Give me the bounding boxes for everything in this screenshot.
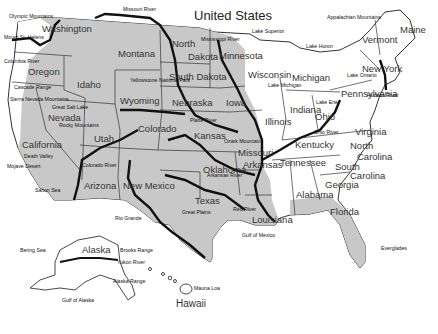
feature-label-bering-sea: Bering Sea xyxy=(20,248,46,253)
state-label-nebraska: Nebraska xyxy=(172,98,213,108)
feature-label-cascade-range: Cascade Range xyxy=(14,85,51,90)
state-label-hawaii: Hawaii xyxy=(176,299,206,309)
state-label-illinois: Illinois xyxy=(265,117,291,127)
feature-label-death-valley: Death Valley xyxy=(24,154,53,159)
state-label-tennessee: Tennessee xyxy=(280,158,326,168)
feature-label-lake-michigan: Lake Michigan xyxy=(268,83,301,88)
state-label-georgia: Georgia xyxy=(325,180,359,190)
state-label-ohio: Ohio xyxy=(315,112,335,122)
hawaii-islands xyxy=(149,268,193,295)
state-label-north: North xyxy=(350,141,373,151)
feature-label-missouri-river: Missouri River xyxy=(123,7,156,12)
state-label-alaska: Alaska xyxy=(82,245,111,255)
state-label-alabama: Alabama xyxy=(296,190,334,200)
state-label-kansas: Kansas xyxy=(194,131,226,141)
feature-label-mount-st-helens: Mount St. Helens xyxy=(4,35,44,40)
state-label-kentucky: Kentucky xyxy=(295,140,334,150)
state-label-minnesota: Minnesota xyxy=(219,51,263,61)
feature-label-alaska-range: Alaska Range xyxy=(113,279,145,284)
state-label-idaho: Idaho xyxy=(77,80,101,90)
feature-label-sierra-nevada-mountains: Sierra Nevada Mountains xyxy=(10,97,69,102)
state-label-dakota: Dakota xyxy=(188,52,218,62)
feature-label-salton-sea: Salton Sea xyxy=(35,188,60,193)
state-label-texas: Texas xyxy=(195,196,220,206)
state-label-new-mexico: New Mexico xyxy=(123,181,175,191)
state-label-virginia: Virginia xyxy=(355,127,387,137)
state-label-wisconsin: Wisconsin xyxy=(248,70,291,80)
feature-label-gulf-of-alaska: Gulf of Alaska xyxy=(62,298,94,303)
feature-label-columbia-river: Columbia River xyxy=(4,59,39,64)
feature-label-yukon-river: Yukon River xyxy=(117,260,145,265)
feature-label-rocky-mountains: Rocky Mountains xyxy=(59,123,99,128)
feature-label-great-plains: Great Plains xyxy=(182,210,211,215)
feature-label-arkansas-river: Arkansas River xyxy=(207,173,242,178)
feature-label-platte-river: Platte River xyxy=(190,118,217,123)
feature-label-red-river: Red River xyxy=(233,207,256,212)
state-label-iowa: Iowa xyxy=(226,98,246,108)
feature-label-rio-grande: Rio Grande xyxy=(115,216,142,221)
state-label-maine: Maine xyxy=(400,25,426,35)
feature-label-mauna-loa: Mauna Loa xyxy=(194,286,220,291)
feature-label-appalachian-mountains: Appalachian Mountains xyxy=(327,15,381,20)
feature-label-lake-huron: Lake Huron xyxy=(306,44,333,49)
feature-label-lake-superior: Lake Superior xyxy=(252,29,284,34)
state-label-carolina: Carolina xyxy=(350,171,385,181)
state-label-arizona: Arizona xyxy=(84,181,116,191)
feature-label-lake-erie: Lake Erie xyxy=(316,100,338,105)
feature-label-yellowstone-national-park: Yellowstone National Park xyxy=(130,78,190,83)
state-label-wyoming: Wyoming xyxy=(120,96,160,106)
state-label-louisiana: Louisiana xyxy=(252,215,293,225)
state-label-vermont: Vermont xyxy=(362,35,397,45)
state-label-washington: Washington xyxy=(42,24,92,34)
feature-label-gulf-of-mexico: Gulf of Mexico xyxy=(242,233,275,238)
feature-label-ohio-river: Ohio River xyxy=(314,130,339,135)
state-label-carolina: Carolina xyxy=(357,152,392,162)
feature-label-brooks-range: Brooks Range xyxy=(120,248,153,253)
state-label-arkansas: Arkansas xyxy=(243,160,283,170)
feature-label-great-salt-lake: Great Salt Lake xyxy=(52,105,88,110)
state-label-utah: Utah xyxy=(94,134,114,144)
state-label-colorado: Colorado xyxy=(138,124,177,134)
feature-label-lake-ontario: Lake Ontario xyxy=(347,73,377,78)
state-label-california: California xyxy=(22,140,62,150)
map-title: United States xyxy=(194,9,272,22)
feature-label-mojave-desert: Mojave Desert xyxy=(7,164,40,169)
state-label-montana: Montana xyxy=(118,49,155,59)
state-label-oregon: Oregon xyxy=(28,67,60,77)
feature-label-hudson-river: Hudson River xyxy=(367,93,398,98)
feature-label-mississippi-river: Mississippi River xyxy=(201,37,240,42)
state-label-florida: Florida xyxy=(330,207,359,217)
feature-label-colorado-river: Colorado River xyxy=(82,163,117,168)
state-label-missouri: Missouri xyxy=(238,148,273,158)
state-label-north: North xyxy=(172,39,195,49)
feature-label-ozark-mountains: Ozark Mountains xyxy=(224,139,263,144)
feature-label-olympic-mountains: Olympic Mountains xyxy=(9,14,53,19)
feature-label-everglades: Everglades xyxy=(381,246,407,251)
